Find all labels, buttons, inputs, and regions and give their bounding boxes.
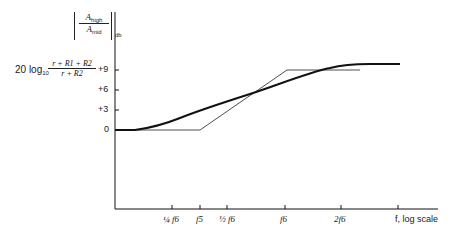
- y-tick-label: 0: [104, 124, 109, 134]
- bode-plot: [0, 0, 453, 238]
- y-ticks: [115, 70, 119, 110]
- x-tick-label: f5: [196, 214, 203, 224]
- y-tick-label: +3: [98, 104, 108, 114]
- x-tick-label: f6: [280, 214, 287, 224]
- asymptote-line: [115, 70, 360, 130]
- x-ticks: [172, 205, 398, 209]
- x-tick-label: ¼ f6: [163, 214, 179, 224]
- x-tick-label: 2f6: [334, 214, 346, 224]
- response-curve: [115, 64, 400, 130]
- x-tick-label: ½ f6: [219, 214, 235, 224]
- gain-formula: 20 log10: [15, 64, 49, 76]
- x-axis-title: f, log scale: [395, 214, 438, 224]
- y-tick-label: +6: [98, 84, 108, 94]
- y-tick-label: +9: [98, 64, 108, 74]
- gain-formula-fraction: r + R1 + R2 r + R2: [48, 59, 96, 78]
